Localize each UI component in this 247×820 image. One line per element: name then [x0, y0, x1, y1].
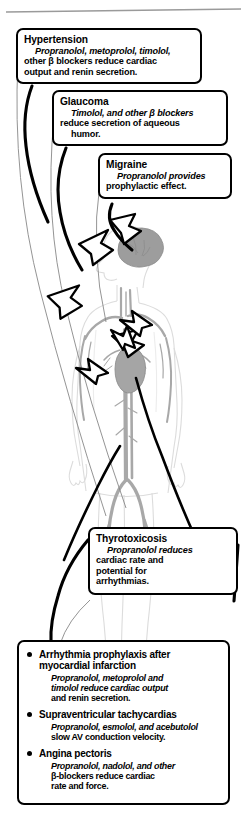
list-item-body: Propranolol, metoprolol and timolol redu… [26, 673, 222, 704]
bullet-icon [27, 652, 32, 657]
figure-canvas: Hypertension Propranolol, metoprolol, ti… [0, 0, 247, 820]
top-rule [6, 9, 241, 12]
list-item-body: Propranolol, nadolol, and other β-blocke… [26, 761, 222, 792]
callout-glaucoma-body: Timolol, and other β blockers reduce sec… [60, 108, 221, 139]
bullet-icon [27, 712, 32, 717]
callout-migraine-heading: Migraine [106, 159, 225, 171]
callout-glaucoma-heading: Glaucoma [60, 96, 221, 108]
callout-hypertension-body: Propranolol, metoprolol, timolol, other … [24, 46, 195, 77]
callout-glaucoma: Glaucoma Timolol, and other β blockers r… [52, 90, 228, 146]
callout-migraine-body: Propranolol provides prophylactic effect… [106, 171, 225, 192]
callout-migraine: Migraine Propranolol provides prophylact… [98, 153, 232, 199]
callout-thyrotoxicosis-heading: Thyrotoxicosis [96, 533, 231, 545]
callout-thyrotoxicosis-body: Propranolol reduces cardiac rate and pot… [96, 545, 231, 587]
callout-hypertension: Hypertension Propranolol, metoprolol, ti… [16, 28, 202, 84]
callout-hypertension-heading: Hypertension [24, 34, 195, 46]
list-item-title: Angina pectoris [26, 748, 222, 759]
list-item: Angina pectoris Propranolol, nadolol, an… [26, 748, 222, 791]
bullet-icon [27, 751, 32, 756]
list-item-body: Propranolol, esmolol, and acebutolol slo… [26, 722, 222, 742]
list-item: Arrhythmia prophylaxis after myocardial … [26, 649, 222, 703]
arrow-to-lower-torso [46, 282, 84, 320]
callout-thyrotoxicosis: Thyrotoxicosis Propranolol reduces cardi… [88, 527, 238, 595]
list-item-title: Supraventricular tachycardias [26, 709, 222, 720]
list-item: Supraventricular tachycardias Propranolo… [26, 709, 222, 742]
list-item-title: Arrhythmia prophylaxis after myocardial … [26, 649, 222, 672]
indications-list: Arrhythmia prophylaxis after myocardial … [17, 640, 230, 805]
